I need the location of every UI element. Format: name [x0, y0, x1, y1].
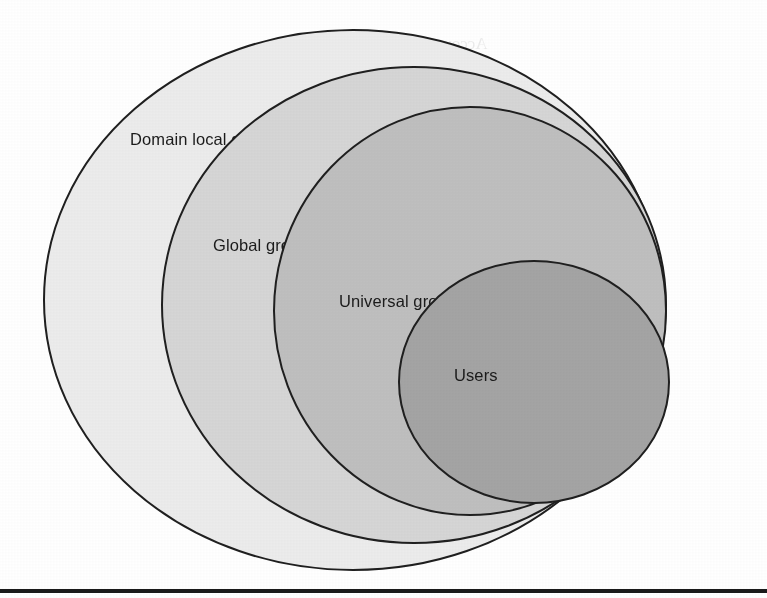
region-users[interactable]: Users	[399, 261, 669, 503]
figure-page: Account Nothing and a solicity group Dom…	[0, 0, 767, 598]
users-label: Users	[454, 366, 498, 384]
users-ellipse	[399, 261, 669, 503]
page-bottom-rule	[0, 589, 767, 593]
nested-group-scope-diagram: Domain local group Global group Universa…	[0, 0, 767, 598]
